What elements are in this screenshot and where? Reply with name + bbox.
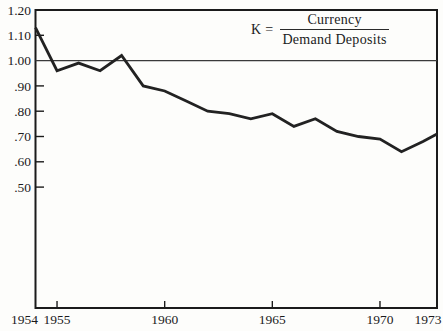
x-axis-label: 1973 [415,312,442,327]
chart-figure: 1.201.101.00.90.80.70.60.501954195519601… [0,0,443,331]
x-axis-label: 1955 [44,312,71,327]
y-axis-label: .90 [14,79,31,94]
y-axis-label: 1.00 [7,53,31,68]
legend-denominator: Demand Deposits [280,30,388,48]
x-axis-label: 1970 [366,312,393,327]
legend-k-label: K = [251,22,273,38]
y-axis-label: 1.10 [7,28,31,43]
y-axis-label: .60 [14,154,31,169]
y-axis-label: .70 [14,129,31,144]
chart-svg: 1.201.101.00.90.80.70.60.501954195519601… [0,0,443,331]
plot-frame [36,10,438,308]
x-axis-label: 1954 [11,312,38,327]
x-axis-label: 1965 [259,312,286,327]
y-axis-label: .50 [14,180,31,195]
chart-legend: K = Currency Demand Deposits [251,12,389,48]
legend-fraction: Currency Demand Deposits [280,12,388,48]
legend-numerator: Currency [280,12,388,30]
y-axis-label: 1.20 [7,3,31,18]
x-axis-label: 1960 [151,312,178,327]
y-axis-label: .80 [14,104,31,119]
